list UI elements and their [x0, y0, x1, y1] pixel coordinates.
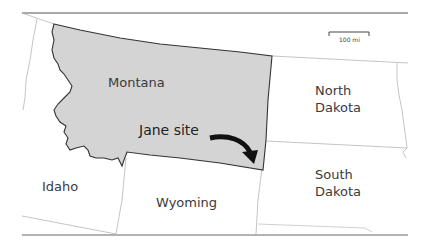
state-montana[interactable] [52, 24, 272, 170]
scale-bar-label: 100 mi [339, 37, 360, 44]
label-south-dakota-line2: Dakota [315, 185, 361, 200]
label-south-dakota-line1: South [315, 168, 353, 183]
border-idaho-wyoming [116, 158, 126, 234]
border-canada-east [272, 56, 408, 63]
label-wyoming: Wyoming [156, 196, 217, 211]
label-idaho: Idaho [42, 180, 78, 195]
border-canada-west [22, 13, 54, 24]
label-jane-site: Jane site [139, 122, 199, 138]
border-nd-sd [266, 141, 407, 148]
border-dakota-east [397, 63, 407, 158]
border-idaho-west [23, 19, 37, 110]
label-north-dakota-line2: Dakota [315, 101, 361, 116]
border-sd-south [258, 224, 372, 232]
label-north-dakota-line1: North [315, 84, 351, 99]
label-montana: Montana [108, 76, 165, 91]
border-idaho-south [22, 216, 116, 234]
